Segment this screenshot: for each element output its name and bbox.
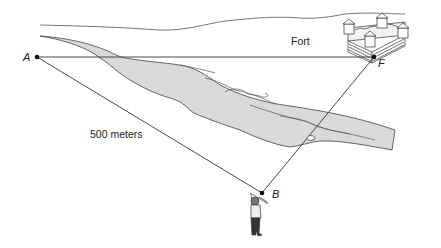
surveyor-icon <box>250 193 268 236</box>
fort-icon <box>343 13 409 63</box>
label-A: A <box>22 51 30 63</box>
diagram-canvas: Fort A F B 500 meters <box>0 0 441 248</box>
label-F: F <box>378 57 386 69</box>
point-B <box>260 191 265 196</box>
bank-marker <box>307 136 315 141</box>
point-A <box>35 55 40 60</box>
distance-label: 500 meters <box>90 128 143 140</box>
fort-label: Fort <box>291 35 310 47</box>
point-F <box>372 55 377 60</box>
label-B: B <box>272 188 279 200</box>
